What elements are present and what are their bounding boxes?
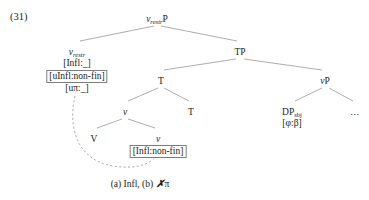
t-upper-node: T (158, 76, 164, 87)
dp-subject-node: DPsbj[φ:β] (282, 107, 302, 130)
t-lower-node: T (188, 107, 194, 118)
v-small-terminal: v[Infl:non-fin] (130, 134, 187, 158)
vp-node-label: vP (320, 76, 330, 87)
branch-t-upper-to-v-mid (128, 88, 158, 101)
caption-suffix: π (165, 179, 170, 189)
v-restr-p-subscript: restr (150, 18, 162, 25)
branch-vp-to-ellipsis (329, 88, 353, 101)
vp-node: vP (320, 76, 330, 87)
dp-subject-node-category: DP (282, 107, 294, 117)
v-middle-node: v (123, 107, 127, 118)
v-big-terminal: V (91, 134, 98, 145)
branch-tp-to-t-upper (164, 59, 236, 70)
branch-v-mid-to-v-terminal-right (128, 119, 155, 128)
branch-root-to-v-restr-head (80, 26, 154, 41)
dp-subject-node-label: DPsbj (282, 107, 302, 118)
branch-root-to-tp (161, 26, 237, 41)
v-middle-node-label: v (123, 107, 127, 118)
tp-node: TP (234, 47, 245, 58)
v-restr-head-feature-1: [uInfl:non-fin] (46, 70, 107, 83)
dp-subject-node-subscript: sbj (294, 111, 302, 118)
t-lower-node-category: T (188, 107, 194, 117)
syntax-tree-figure: (31) vrestrPvrestr[Infl:_][uInfl:non-fin… (0, 0, 369, 200)
tp-node-category: TP (234, 47, 245, 57)
branch-vp-to-dp-sbj (295, 88, 322, 101)
figure-caption: (a) Infl, (b) ✗π (111, 178, 170, 189)
vp-complement-ellipsis: ... (351, 107, 360, 117)
tree-branch-lines (0, 0, 369, 200)
v-big-terminal-label: V (91, 134, 98, 145)
cross-mark-icon: ✗ (156, 178, 165, 189)
t-lower-node-label: T (188, 107, 194, 118)
v-big-terminal-category: V (91, 134, 98, 144)
v-restr-head-feature-2: [uπ:_] (46, 83, 107, 94)
tp-node-label: TP (234, 47, 245, 58)
v-restr-p-label: vrestrP (146, 14, 168, 25)
branch-v-mid-to-v-terminal-left (97, 119, 122, 128)
branch-t-upper-to-t-lower (164, 88, 189, 101)
v-restr-head-feature-0: [Infl:_] (46, 58, 107, 69)
caption-prefix: (a) Infl, (b) (111, 179, 156, 189)
v-middle-node-category: v (123, 107, 127, 117)
v-small-terminal-label: v (130, 134, 187, 145)
v-restr-head-subscript: restr (73, 51, 85, 58)
branch-tp-to-vp (244, 59, 322, 70)
dp-subject-node-feature-0: [φ:β] (282, 118, 302, 129)
vp-node-projection: P (324, 76, 329, 86)
v-restr-p-projection: P (163, 14, 168, 24)
v-restr-head-feature-1-box: [uInfl:non-fin] (46, 70, 107, 83)
t-upper-node-category: T (158, 76, 164, 86)
t-upper-node-label: T (158, 76, 164, 87)
v-small-terminal-feature-0-box: [Infl:non-fin] (130, 145, 187, 158)
v-restr-p: vrestrP (146, 14, 168, 25)
v-small-terminal-category: v (156, 134, 160, 144)
v-restr-head: vrestr[Infl:_][uInfl:non-fin][uπ:_] (46, 47, 107, 94)
v-small-terminal-feature-0: [Infl:non-fin] (130, 145, 187, 158)
v-restr-head-label: vrestr (46, 47, 107, 58)
